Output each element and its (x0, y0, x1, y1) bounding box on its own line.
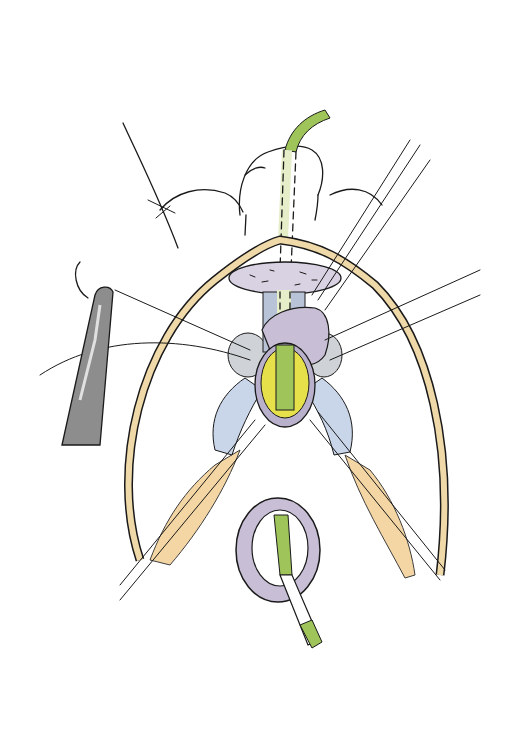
abdomen-outline (123, 123, 382, 248)
stoma (255, 343, 315, 427)
needle-holder-icon (62, 262, 113, 445)
meatal-disk (229, 262, 341, 294)
surgical-illustration (0, 0, 532, 748)
catheter-ring (236, 498, 322, 648)
